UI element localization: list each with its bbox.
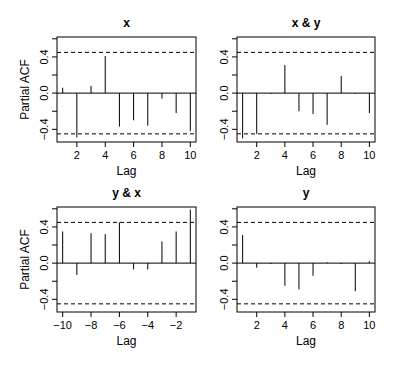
- x-axis-label: Lag: [116, 334, 136, 348]
- x-tick-label: 10: [363, 149, 375, 161]
- x-tick-label: 8: [338, 319, 344, 331]
- x-tick-label: −8: [85, 319, 98, 331]
- panel-x-and-y: x & y246810−0.40.00.4Lag: [218, 16, 375, 178]
- y-axis-label: Partial ACF: [18, 59, 32, 120]
- panel-title: y & x: [112, 186, 141, 200]
- x-tick-label: 10: [363, 319, 375, 331]
- x-tick-label: 6: [131, 149, 137, 161]
- pacf-figure: x246810−0.40.00.4LagPartial ACF x & y246…: [0, 0, 399, 365]
- x-tick-label: −4: [142, 319, 155, 331]
- y-tick-label: 0.0: [38, 255, 50, 270]
- x-axis-label: Lag: [296, 164, 316, 178]
- y-tick-label: 0.4: [38, 49, 50, 64]
- y-tick-label: 0.4: [38, 219, 50, 234]
- y-tick-label: 0.4: [218, 49, 230, 64]
- y-tick-label: 0.4: [218, 219, 230, 234]
- y-tick-label: 0.0: [218, 85, 230, 100]
- y-tick-label: 0.0: [38, 85, 50, 100]
- pacf-figure-canvas: x246810−0.40.00.4LagPartial ACF x & y246…: [0, 0, 399, 365]
- x-tick-label: 4: [282, 319, 288, 331]
- y-axis-label: Partial ACF: [18, 229, 32, 290]
- y-tick-label: −0.4: [38, 118, 50, 140]
- x-tick-label: 10: [184, 149, 196, 161]
- x-tick-label: 4: [102, 149, 108, 161]
- y-tick-label: −0.4: [218, 118, 230, 140]
- y-tick-label: −0.4: [218, 288, 230, 310]
- plot-frame: [237, 207, 375, 312]
- x-tick-label: −6: [113, 319, 126, 331]
- plot-frame: [57, 207, 196, 312]
- y-tick-label: −0.4: [38, 288, 50, 310]
- panel-x: x246810−0.40.00.4LagPartial ACF: [18, 16, 196, 178]
- x-tick-label: 2: [254, 319, 260, 331]
- x-tick-label: 6: [310, 319, 316, 331]
- x-tick-label: 8: [159, 149, 165, 161]
- plot-frame: [237, 37, 375, 142]
- x-tick-label: 8: [338, 149, 344, 161]
- panel-title: x & y: [292, 16, 321, 30]
- panel-title: y: [303, 186, 310, 200]
- panel-title: x: [123, 16, 130, 30]
- panel-y-and-x: y & x−10−8−6−4−2−0.40.00.4LagPartial ACF: [18, 186, 196, 348]
- x-tick-label: −2: [170, 319, 183, 331]
- plot-frame: [57, 37, 196, 142]
- x-tick-label: −10: [53, 319, 72, 331]
- x-tick-label: 4: [282, 149, 288, 161]
- x-tick-label: 2: [254, 149, 260, 161]
- panel-y: y246810−0.40.00.4Lag: [218, 186, 375, 348]
- x-axis-label: Lag: [116, 164, 136, 178]
- x-tick-label: 2: [74, 149, 80, 161]
- x-tick-label: 6: [310, 149, 316, 161]
- y-tick-label: 0.0: [218, 255, 230, 270]
- x-axis-label: Lag: [296, 334, 316, 348]
